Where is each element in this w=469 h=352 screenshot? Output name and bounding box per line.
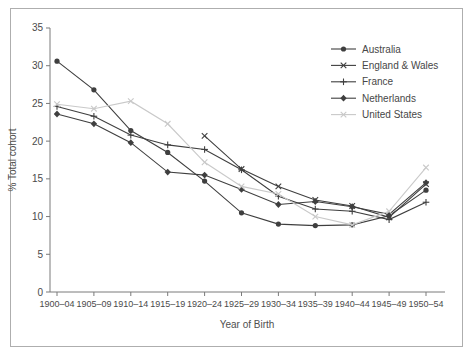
legend-item-france: France: [331, 76, 394, 87]
legend-item-england-wales-label: England & Wales: [362, 60, 438, 71]
series-australia-marker-circle: [313, 223, 318, 228]
chart-figure: 051015202530351900–041905–091910–141915–…: [0, 0, 469, 352]
x-tick-label: 1950–54: [408, 299, 443, 309]
series-france-line: [57, 106, 426, 219]
y-tick-label: 15: [32, 173, 44, 184]
legend-item-netherlands-marker-diamond: [340, 95, 346, 102]
series-netherlands-marker-diamond: [275, 201, 281, 208]
legend-item-australia-label: Australia: [362, 44, 401, 55]
x-tick-label: 1925–29: [224, 299, 259, 309]
series-australia-marker-circle: [239, 210, 244, 215]
y-axis-title: % Total cohort: [7, 128, 18, 191]
y-tick-label: 10: [32, 211, 44, 222]
legend-item-australia: Australia: [331, 44, 401, 55]
y-tick-label: 25: [32, 98, 44, 109]
legend-item-england-wales: England & Wales: [331, 60, 438, 71]
x-tick-label: 1920–24: [187, 299, 222, 309]
legend-item-australia-marker-circle: [341, 46, 346, 51]
y-tick-label: 5: [37, 249, 43, 260]
legend-item-netherlands-label: Netherlands: [362, 93, 416, 104]
line-chart: 051015202530351900–041905–091910–141915–…: [0, 0, 469, 352]
x-tick-label: 1940–44: [335, 299, 370, 309]
x-axis-title: Year of Birth: [220, 319, 275, 330]
legend-item-france-label: France: [362, 76, 394, 87]
series-australia-marker-circle: [423, 188, 428, 193]
y-tick-label: 35: [32, 22, 44, 33]
series-australia-marker-circle: [165, 150, 170, 155]
x-tick-label: 1935–39: [298, 299, 333, 309]
x-tick-label: 1900–04: [39, 299, 74, 309]
x-tick-label: 1945–49: [372, 299, 407, 309]
y-tick-label: 0: [37, 287, 43, 298]
x-tick-label: 1905–09: [76, 299, 111, 309]
series-netherlands: [54, 111, 429, 218]
y-tick-label: 30: [32, 60, 44, 71]
x-tick-label: 1915–19: [150, 299, 185, 309]
x-tick-label: 1930–34: [261, 299, 296, 309]
series-netherlands-line: [57, 114, 426, 214]
legend: AustraliaEngland & WalesFranceNetherland…: [331, 44, 438, 121]
x-tick-label: 1910–14: [113, 299, 148, 309]
series-netherlands-marker-diamond: [201, 172, 207, 179]
series-australia-marker-circle: [276, 222, 281, 227]
legend-item-united-states: United States: [331, 109, 422, 120]
series-france: [54, 103, 430, 223]
series-australia-marker-circle: [54, 59, 59, 64]
legend-item-netherlands: Netherlands: [331, 93, 416, 104]
series-netherlands-marker-diamond: [54, 111, 60, 118]
series-australia-marker-circle: [91, 87, 96, 92]
legend-item-united-states-label: United States: [362, 109, 422, 120]
series-england-wales-line: [205, 136, 426, 217]
series-netherlands-marker-diamond: [91, 120, 97, 127]
series-australia-marker-circle: [202, 179, 207, 184]
y-tick-label: 20: [32, 136, 44, 147]
